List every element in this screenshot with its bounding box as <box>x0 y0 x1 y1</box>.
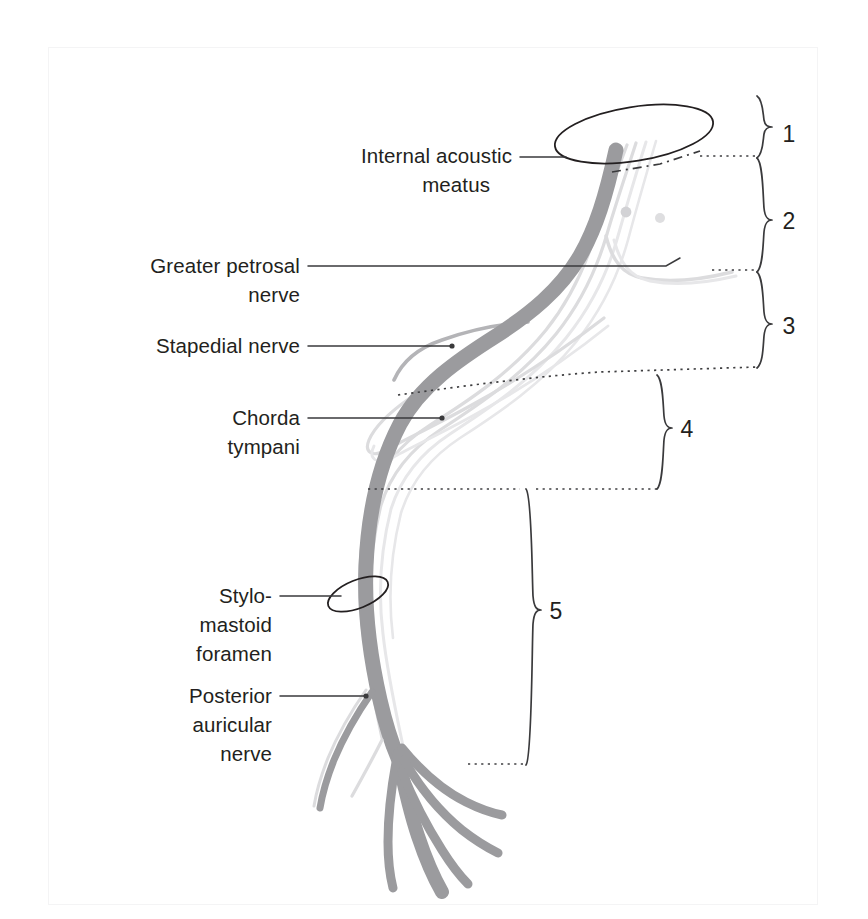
bracket-numbers: 1 2 3 4 5 <box>550 121 796 624</box>
terminal-branches <box>388 748 502 888</box>
label-line: Greater petrosal <box>150 254 300 277</box>
label-internal-acoustic-meatus: Internal acoustic meatus <box>361 144 512 196</box>
nerve-bundle <box>314 141 736 892</box>
leader-posterior-auricular-nerve <box>280 693 369 698</box>
leader-lines <box>280 157 680 699</box>
greater-petrosal-nerve-path <box>606 236 732 280</box>
label-line: Stylo- <box>219 584 272 607</box>
label-line: tympani <box>228 435 300 458</box>
bracket-2 <box>757 158 772 272</box>
bracket-5 <box>526 489 541 765</box>
label-line: nerve <box>220 742 272 765</box>
label-line: Chorda <box>232 406 300 429</box>
pale-fiber-bundle <box>360 141 656 746</box>
label-posterior-auricular-nerve: Posterior auricular nerve <box>189 684 272 765</box>
internal-acoustic-meatus-outline <box>551 95 717 173</box>
facial-nerve-trunk <box>366 150 616 758</box>
label-chorda-tympani: Chorda tympani <box>228 406 301 458</box>
label-line: mastoid <box>200 613 272 636</box>
label-line: nerve <box>248 283 300 306</box>
bracket-number-1: 1 <box>783 121 796 147</box>
figure-canvas: 1 2 3 4 5 Internal acoustic meatus Great… <box>0 0 868 919</box>
geniculate-ganglion-nodule <box>621 207 632 218</box>
label-greater-petrosal-nerve: Greater petrosal nerve <box>150 254 300 306</box>
bracket-number-5: 5 <box>550 598 563 624</box>
label-stapedial-nerve: Stapedial nerve <box>156 334 300 357</box>
label-line: auricular <box>192 713 272 736</box>
bracket-3 <box>757 272 772 368</box>
label-line: Stapedial nerve <box>156 334 300 357</box>
guide-lines <box>368 151 757 764</box>
annotation-labels: Internal acoustic meatus Greater petrosa… <box>150 144 512 765</box>
bracket-4 <box>657 375 672 489</box>
label-line: Posterior <box>189 684 272 707</box>
label-line: meatus <box>422 173 490 196</box>
label-stylomastoid-foramen: Stylo- mastoid foramen <box>196 584 272 665</box>
bracket-number-4: 4 <box>681 416 694 442</box>
leader-chorda-tympani <box>308 415 445 420</box>
bracket-1 <box>757 96 772 158</box>
geniculate-ganglion-nodule <box>655 213 665 223</box>
posterior-auricular-nerve-path <box>314 690 372 808</box>
label-line: foramen <box>196 642 272 665</box>
bracket-number-3: 3 <box>783 313 796 339</box>
numbered-brackets <box>526 96 772 765</box>
bracket-number-2: 2 <box>783 208 796 234</box>
label-line: Internal acoustic <box>361 144 512 167</box>
facial-nerve-diagram: 1 2 3 4 5 Internal acoustic meatus Great… <box>0 0 868 919</box>
